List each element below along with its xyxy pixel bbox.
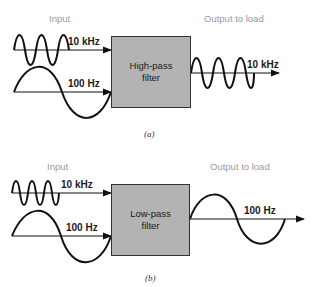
input-label-a: Input — [49, 13, 70, 24]
input-10khz-label-b: 10 kHz — [61, 179, 93, 190]
input-100hz-label-a: 100 Hz — [68, 78, 100, 89]
low-pass-filter-box: Low-passfilter — [111, 184, 190, 256]
filter-label-line1: High-pass — [130, 60, 173, 72]
output-label-b: Output to load — [210, 161, 270, 172]
input-label-b: Input — [47, 161, 68, 172]
filter-label-line1: Low-pass — [130, 208, 171, 220]
high-pass-filter-box: High-passfilter — [111, 36, 191, 108]
output-10khz-label-a: 10 kHz — [247, 59, 279, 70]
output-100hz-label-b: 100 Hz — [244, 205, 276, 216]
input-100hz-label-b: 100 Hz — [66, 222, 98, 233]
caption-a: (a) — [144, 129, 155, 139]
filter-label-line2: filter — [130, 220, 171, 232]
filter-label-line2: filter — [130, 72, 173, 84]
input-10khz-wave — [12, 181, 59, 205]
input-10khz-label-a: 10 kHz — [68, 36, 100, 47]
output-label-a: Output to load — [204, 13, 264, 24]
caption-b: (b) — [145, 273, 156, 283]
